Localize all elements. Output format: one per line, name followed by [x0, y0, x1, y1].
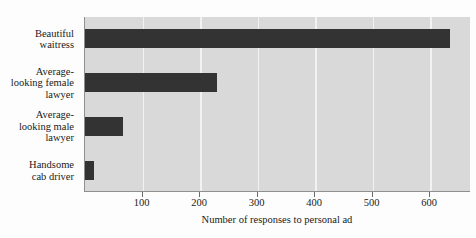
bar [85, 161, 94, 180]
x-axis-title: Number of responses to personal ad [84, 214, 470, 225]
x-tick-label: 400 [306, 197, 322, 208]
x-tick-label: 500 [364, 197, 380, 208]
bar-chart-figure: BeautifulwaitressAverage-looking femalel… [0, 0, 476, 238]
category-label: Average-looking malelawyer [0, 109, 74, 144]
bar-row [85, 148, 94, 192]
bar-row [85, 17, 450, 61]
plot-area [84, 17, 470, 192]
category-label: Handsomecab driver [0, 159, 74, 182]
x-axis-tick-labels: 100200300400500600 [84, 197, 470, 211]
bar-row [85, 61, 217, 105]
x-tick-label: 600 [421, 197, 437, 208]
category-label: Average-looking femalelawyer [0, 65, 74, 100]
bar [85, 73, 217, 92]
category-label: Beautifulwaitress [0, 27, 74, 50]
x-tick-label: 100 [134, 197, 150, 208]
bar [85, 117, 123, 136]
x-tick-label: 300 [249, 197, 265, 208]
bar-series [85, 17, 470, 191]
bar-row [85, 105, 123, 149]
x-tick-label: 200 [191, 197, 207, 208]
bar [85, 29, 450, 48]
category-axis-labels: BeautifulwaitressAverage-looking femalel… [0, 17, 80, 192]
